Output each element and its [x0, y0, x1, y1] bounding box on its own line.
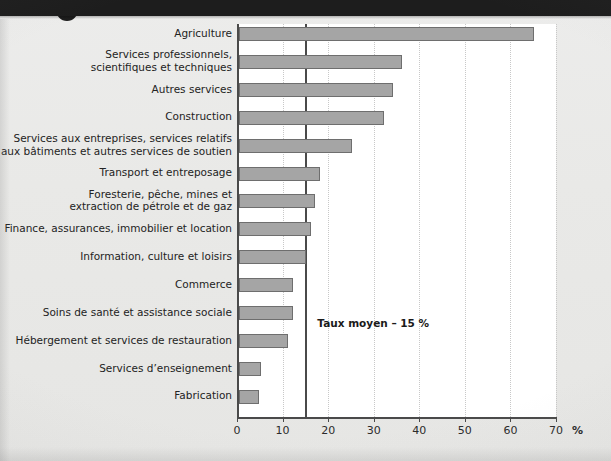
bar	[239, 27, 534, 41]
bar	[239, 111, 384, 125]
bar	[239, 194, 315, 208]
bar	[239, 139, 352, 153]
category-label: Information, culture et loisirs	[80, 250, 232, 263]
bar	[239, 334, 288, 348]
category-label: Foresterie, pêche, mines et extraction d…	[70, 188, 233, 213]
category-label: Agriculture	[174, 27, 232, 40]
x-axis-unit-label: %	[572, 424, 583, 437]
category-label: Services professionnels, scientifiques e…	[91, 48, 232, 73]
bar	[239, 83, 393, 97]
x-tick-label: 30	[367, 424, 381, 437]
category-label: Soins de santé et assistance sociale	[43, 306, 232, 319]
x-tick	[556, 417, 557, 422]
x-tick-label: 50	[458, 424, 472, 437]
x-tick-label: 70	[549, 424, 563, 437]
bar	[239, 55, 402, 69]
bar	[239, 278, 293, 292]
category-label: Services d’enseignement	[99, 362, 232, 375]
x-tick-label: 60	[503, 424, 517, 437]
category-label: Transport et entreposage	[100, 166, 232, 179]
x-tick	[465, 417, 466, 422]
x-tick	[374, 417, 375, 422]
x-tick	[283, 417, 284, 422]
x-tick	[328, 417, 329, 422]
x-tick-label: 10	[276, 424, 290, 437]
x-tick	[510, 417, 511, 422]
gridline	[465, 24, 467, 417]
bar	[239, 306, 293, 320]
category-label: Services aux entreprises, services relat…	[1, 132, 232, 157]
gridline	[556, 24, 558, 417]
x-tick-label: 20	[321, 424, 335, 437]
top-banner	[0, 0, 611, 16]
bar	[239, 167, 320, 181]
category-label: Autres services	[152, 83, 232, 96]
category-label: Finance, assurances, immobilier et locat…	[4, 222, 232, 235]
gridline	[510, 24, 512, 417]
category-label: Commerce	[175, 278, 232, 291]
horizontal-bar-chart: 010203040506070 % Taux moyen – 15 % Agri…	[0, 19, 611, 461]
x-tick-label: 40	[412, 424, 426, 437]
x-tick-label: 0	[234, 424, 241, 437]
bar	[239, 390, 259, 404]
x-tick	[419, 417, 420, 422]
x-axis-line	[237, 417, 556, 419]
bar	[239, 250, 306, 264]
page-background: 010203040506070 % Taux moyen – 15 % Agri…	[0, 0, 611, 461]
category-label: Construction	[165, 110, 232, 123]
category-label: Hébergement et services de restauration	[16, 334, 232, 347]
gridline	[419, 24, 421, 417]
mean-annotation-label: Taux moyen – 15 %	[317, 317, 429, 329]
bar	[239, 222, 311, 236]
bar	[239, 362, 261, 376]
x-tick	[237, 417, 238, 422]
category-label: Fabrication	[174, 389, 232, 402]
